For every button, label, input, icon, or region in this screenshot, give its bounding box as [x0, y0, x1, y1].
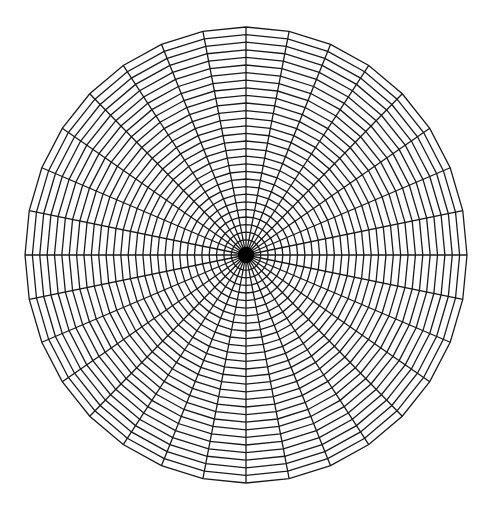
- polar-grid-diagram: [0, 0, 491, 509]
- center-hub: [238, 247, 254, 263]
